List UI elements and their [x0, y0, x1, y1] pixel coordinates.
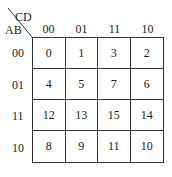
- kmap-cell: 2: [131, 38, 164, 69]
- column-header: 10: [131, 22, 164, 37]
- kmap-cell: 12: [33, 100, 66, 131]
- kmap-cell: 3: [98, 38, 131, 69]
- kmap-cell: 5: [66, 69, 99, 100]
- kmap-cell: 1: [66, 38, 99, 69]
- kmap-cell: 8: [33, 131, 66, 162]
- kmap-cell: 11: [98, 131, 131, 162]
- kmap-cell: 7: [98, 69, 131, 100]
- kmap-corner: CD AB: [0, 0, 33, 37]
- row-header: 11: [12, 109, 32, 124]
- column-header: 11: [98, 22, 131, 37]
- kmap-cell: 4: [33, 69, 66, 100]
- kmap-cell: 13: [66, 100, 99, 131]
- kmap-grid: 0 1 3 2 4 5 7 6 12 13 15 14 8 9 11 10: [32, 37, 164, 163]
- row-header: 01: [12, 78, 32, 93]
- kmap-cell: 14: [131, 100, 164, 131]
- row-variable-label: AB: [5, 23, 22, 38]
- kmap-cell: 6: [131, 69, 164, 100]
- kmap-cell: 15: [98, 100, 131, 131]
- row-header: 00: [12, 46, 32, 61]
- column-header: 01: [65, 22, 98, 37]
- row-header: 10: [12, 141, 32, 156]
- kmap-cell: 0: [33, 38, 66, 69]
- kmap-cell: 9: [66, 131, 99, 162]
- kmap-cell: 10: [131, 131, 164, 162]
- column-header: 00: [32, 22, 65, 37]
